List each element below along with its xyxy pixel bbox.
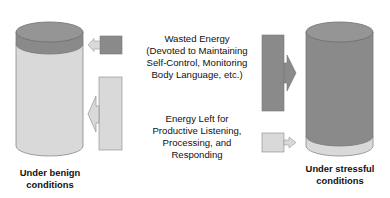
energy-left-label: Energy Left for Productive Listening, Pr…	[140, 113, 254, 161]
benign-energy-left-arrow	[88, 77, 122, 150]
stressful-wasted-segment	[306, 32, 373, 146]
wasted-energy-line-4: Body Language, etc.)	[140, 69, 254, 81]
caption-stressful-line-1: Under stressful	[299, 163, 381, 175]
wasted-energy-line-1: Wasted Energy	[140, 33, 254, 45]
stressful-cylinder-top	[306, 22, 373, 42]
caption-stressful: Under stressful conditions	[299, 163, 381, 187]
energy-left-line-1: Energy Left for	[140, 113, 254, 125]
caption-stressful-line-2: conditions	[299, 175, 381, 187]
benign-wasted-arrow	[88, 36, 122, 54]
caption-benign-line-1: Under benign	[10, 167, 90, 179]
energy-left-line-2: Productive Listening,	[140, 125, 254, 137]
wasted-energy-label: Wasted Energy (Devoted to Maintaining Se…	[140, 33, 254, 81]
caption-benign: Under benign conditions	[10, 167, 90, 191]
wasted-energy-line-2: (Devoted to Maintaining	[140, 45, 254, 57]
energy-left-line-3: Processing, and	[140, 137, 254, 149]
energy-left-line-4: Responding	[140, 149, 254, 161]
cylinder-benign	[16, 22, 83, 156]
cylinder-stressful	[306, 22, 373, 156]
wasted-energy-line-3: Self-Control, Monitoring	[140, 57, 254, 69]
caption-benign-line-2: conditions	[10, 179, 90, 191]
benign-cylinder-top	[16, 22, 83, 42]
benign-energy-left-segment	[16, 44, 83, 156]
stressful-energy-left-arrow	[262, 133, 296, 152]
stressful-wasted-arrow	[262, 35, 296, 111]
